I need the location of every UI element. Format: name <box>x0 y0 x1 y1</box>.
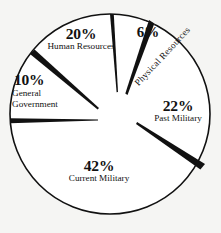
pie-outline-circle <box>10 14 210 214</box>
pie-chart: 20% Human Resources 10% General Governme… <box>0 0 221 233</box>
pie-chart-graphic <box>0 0 221 233</box>
